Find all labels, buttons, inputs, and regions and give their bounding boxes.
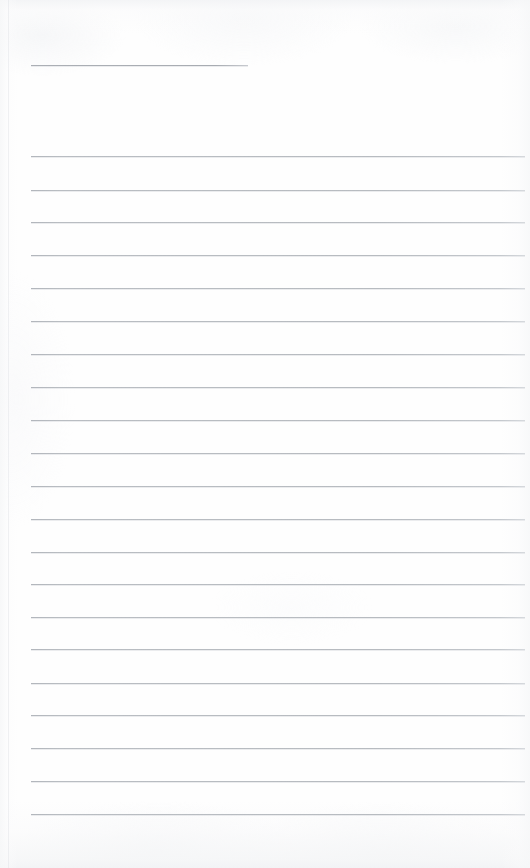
rule-line: [31, 354, 525, 355]
rule-line: [31, 649, 525, 650]
rule-line: [31, 321, 525, 322]
rule-line: [31, 420, 525, 421]
rule-line: [31, 617, 525, 618]
rule-line-short: [31, 65, 248, 66]
rule-line: [31, 552, 525, 553]
rule-line: [31, 814, 525, 815]
rule-line: [31, 387, 525, 388]
rule-line: [31, 190, 525, 191]
rule-line: [31, 156, 525, 157]
rule-line: [31, 584, 525, 585]
rule-line: [31, 222, 525, 223]
rule-line: [31, 781, 525, 782]
rule-line: [31, 715, 525, 716]
rule-line: [31, 255, 525, 256]
rule-line: [31, 486, 525, 487]
rule-line: [31, 453, 525, 454]
rule-line: [31, 288, 525, 289]
ruled-lines-layer: [0, 0, 530, 868]
rule-line: [31, 748, 525, 749]
scanned-page: Blank ruled notebook page: [0, 0, 530, 868]
rule-line: [31, 519, 525, 520]
rule-line: [31, 683, 525, 684]
